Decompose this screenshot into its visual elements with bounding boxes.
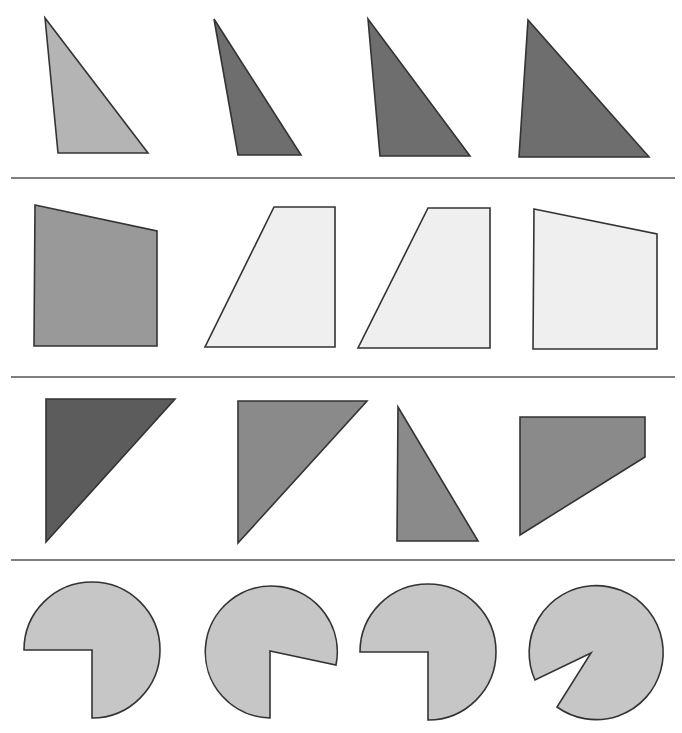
- row-4-pie-wedges: [24, 582, 663, 720]
- quadrilateral-shape-r2-c1: [34, 205, 157, 346]
- row-3-mixed: [46, 399, 645, 543]
- pie-shape-r4-c2: [205, 586, 337, 718]
- quadrilateral-shape-r2-c4: [533, 209, 657, 349]
- triangle-shape-r1-c1: [45, 18, 148, 153]
- triangle-shape-r1-c4: [519, 20, 649, 157]
- shape-rows: [24, 18, 663, 720]
- pie-shape-r4-c3: [360, 584, 496, 720]
- quadrilateral-shape-r3-c4: [520, 417, 645, 535]
- row-2-quadrilaterals: [34, 205, 657, 349]
- triangle-shape-r3-c3: [397, 407, 478, 541]
- quadrilateral-shape-r2-c2: [205, 207, 335, 347]
- pie-shape-r4-c1: [24, 582, 160, 718]
- pie-shape-r4-c4: [529, 586, 663, 720]
- quadrilateral-shape-r2-c3: [358, 208, 490, 348]
- triangle-shape-r1-c3: [368, 19, 470, 156]
- shapes-diagram: [0, 0, 682, 733]
- triangle-shape-r1-c2: [214, 19, 301, 155]
- triangle-shape-r3-c2: [238, 401, 367, 543]
- row-1-triangles: [45, 18, 649, 157]
- triangle-shape-r3-c1: [46, 399, 175, 542]
